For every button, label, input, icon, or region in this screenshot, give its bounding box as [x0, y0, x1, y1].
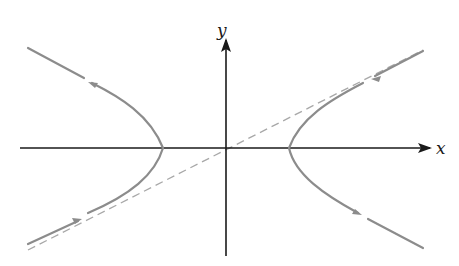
left-trajectory-upper-inner — [92, 83, 163, 148]
y-axis-label: y — [216, 20, 227, 40]
left-trajectory — [28, 48, 163, 244]
phase-portrait-diagram: x y — [0, 0, 459, 266]
left-trajectory-lower — [88, 148, 163, 213]
right-trajectory-down-left-arrow-icon — [371, 76, 381, 82]
right-trajectory-upper-inner — [289, 83, 363, 148]
left-trajectory-up-arrow-icon — [88, 82, 98, 88]
right-trajectory — [289, 51, 423, 248]
diagram-svg: x y — [0, 0, 459, 266]
right-trajectory-lower-inner — [289, 148, 358, 213]
right-trajectory-upper-outer — [375, 51, 423, 76]
left-trajectory-upper-outer — [28, 48, 84, 78]
right-trajectory-lower-outer — [368, 219, 423, 248]
x-axis-label: x — [436, 138, 446, 158]
left-trajectory-lower-outer — [28, 221, 78, 244]
